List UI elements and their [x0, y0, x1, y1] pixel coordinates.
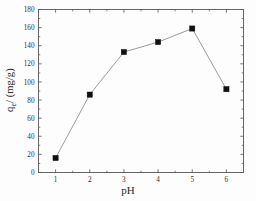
y-tick-label: 20 [27, 151, 35, 159]
x-tick-label: 6 [225, 176, 229, 184]
data-point-marker [121, 49, 126, 54]
y-tick-label: 40 [27, 133, 35, 141]
y-tick-label: 120 [24, 60, 35, 68]
y-tick-label: 160 [24, 24, 35, 32]
plot-area: 020406080100120140160180 123456 [0, 0, 256, 201]
chart-figure: qe/ (mg/g) pH 020406080100120140160180 1… [0, 0, 256, 201]
data-point-marker [87, 92, 92, 97]
series-line-qe [56, 29, 227, 158]
y-tick-label: 180 [24, 6, 35, 14]
axes-frame [39, 10, 244, 173]
data-point-marker [53, 155, 58, 160]
y-tick-label: 0 [31, 169, 35, 177]
x-tick-label: 2 [88, 176, 92, 184]
y-tick-label: 60 [27, 115, 35, 123]
y-axis-ticks: 020406080100120140160180 [24, 6, 244, 177]
x-tick-label: 3 [122, 176, 126, 184]
data-point-marker [224, 87, 229, 92]
x-tick-label: 5 [190, 176, 194, 184]
y-tick-label: 100 [24, 79, 35, 87]
y-tick-label: 80 [27, 97, 35, 105]
data-point-marker [155, 40, 160, 45]
x-axis-ticks: 123456 [54, 10, 229, 185]
y-tick-label: 140 [24, 42, 35, 50]
x-tick-label: 4 [156, 176, 160, 184]
data-point-marker [190, 26, 195, 31]
x-tick-label: 1 [54, 176, 58, 184]
